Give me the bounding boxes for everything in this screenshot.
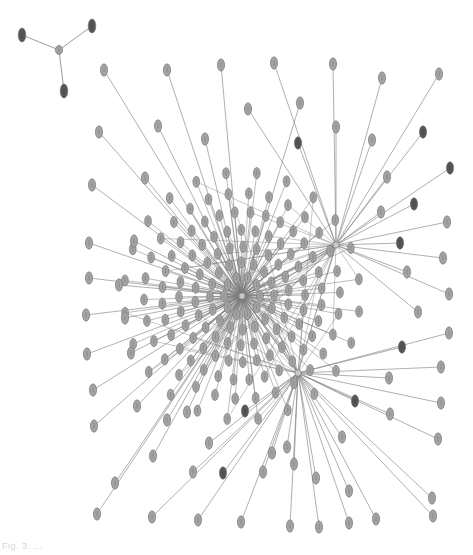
edge [104,70,242,296]
edge [298,373,349,523]
edge [59,26,92,50]
figure-caption: Fig. 3. ... [2,541,43,551]
edge [336,245,418,312]
hub-lower[interactable] [295,370,301,376]
edge [290,373,298,526]
edge [298,373,438,439]
edge [22,35,59,50]
edge [336,78,382,245]
edge [298,373,441,403]
edge [298,373,433,516]
network-figure: Fig. 3. ... [0,0,473,555]
edge [298,373,376,519]
hub-main[interactable] [239,293,245,299]
edge [336,74,439,245]
hub-right[interactable] [333,242,339,248]
edge [333,245,336,335]
network-graph [0,0,473,555]
